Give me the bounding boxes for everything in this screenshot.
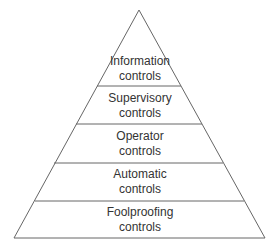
tier-label-line1: Supervisory — [80, 91, 200, 106]
tier-label-line2: controls — [80, 182, 200, 197]
tier-label-line1: Operator — [80, 129, 200, 144]
control-hierarchy-pyramid: Information controls Supervisory control… — [0, 0, 280, 251]
tier-foolproofing-controls: Foolproofing controls — [80, 205, 200, 235]
tier-automatic-controls: Automatic controls — [80, 167, 200, 197]
tier-label-line2: controls — [80, 220, 200, 235]
tier-label-line1: Automatic — [80, 167, 200, 182]
tier-label-line1: Information — [80, 54, 200, 69]
tier-operator-controls: Operator controls — [80, 129, 200, 159]
tier-label-line2: controls — [80, 69, 200, 84]
tier-supervisory-controls: Supervisory controls — [80, 91, 200, 121]
tier-label-line2: controls — [80, 144, 200, 159]
tier-label-line1: Foolproofing — [80, 205, 200, 220]
tier-label-line2: controls — [80, 106, 200, 121]
tier-information-controls: Information controls — [80, 54, 200, 84]
